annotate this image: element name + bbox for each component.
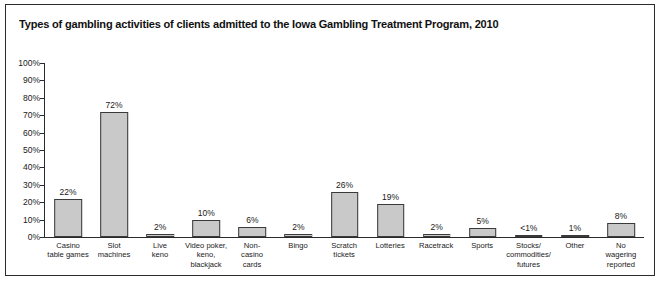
x-axis-labels: Casinotable gamesSlotmachinesLivekenoVid… — [45, 241, 644, 269]
bar-slot[interactable]: 2% — [275, 63, 321, 238]
x-axis-category-label: Scratchtickets — [321, 241, 367, 269]
y-axis-tick — [40, 133, 44, 134]
y-axis-tick — [40, 98, 44, 99]
bar-value-label: 2% — [292, 222, 304, 232]
x-axis-category-line: Lotteries — [368, 241, 412, 250]
bar-value-label: 5% — [477, 216, 489, 226]
bar-slot[interactable]: 22% — [45, 63, 91, 238]
y-axis-tick — [40, 202, 44, 203]
bar-slot[interactable]: 19% — [368, 63, 414, 238]
bar-value-label: 10% — [198, 208, 215, 218]
y-axis-tick — [40, 63, 44, 64]
y-axis-tick-label: 90% — [6, 75, 40, 85]
bar-value-label: 26% — [336, 180, 353, 190]
x-axis-category-label: Nowageringreported — [598, 241, 644, 269]
x-axis-category-label: Bingo — [275, 241, 321, 269]
x-axis-category-line: tickets — [322, 250, 366, 259]
x-axis-category-label: Lotteries — [367, 241, 413, 269]
x-axis-category-line: No — [599, 241, 643, 250]
x-axis-category-line: commodities/ — [506, 250, 551, 259]
x-axis-category-line: wagering — [599, 250, 643, 259]
y-axis-tick-label: 10% — [6, 215, 40, 225]
bar-slot[interactable]: 10% — [183, 63, 229, 238]
x-axis-category-line: machines — [92, 250, 136, 259]
x-axis-category-line: Sports — [460, 241, 504, 250]
bar-value-label: 1% — [569, 223, 581, 233]
x-axis-category-label: Racetrack — [413, 241, 459, 269]
x-axis-category-line: reported — [599, 260, 643, 269]
x-axis-category-line: Scratch — [322, 241, 366, 250]
bar[interactable] — [607, 223, 635, 237]
y-axis-tick-label: 50% — [6, 145, 40, 155]
x-axis-category-label: Livekeno — [137, 241, 183, 269]
bar-slot[interactable]: 8% — [598, 63, 644, 238]
bar[interactable] — [54, 199, 82, 237]
x-axis-category-label: Slotmachines — [91, 241, 137, 269]
bar-slot[interactable]: 5% — [460, 63, 506, 238]
y-axis-tick-label: 20% — [6, 197, 40, 207]
x-axis-category-line: casino — [230, 250, 274, 259]
y-axis-tick — [40, 185, 44, 186]
x-axis-category-label: Video poker,keno,blackjack — [183, 241, 229, 269]
bar[interactable] — [561, 235, 589, 237]
chart-title: Types of gambling activities of clients … — [19, 18, 498, 30]
bar-value-label: 6% — [246, 215, 258, 225]
bar-slot[interactable]: 72% — [91, 63, 137, 238]
y-axis-tick-label: 70% — [6, 110, 40, 120]
y-axis-tick-label: 0% — [6, 232, 40, 242]
x-axis-category-line: table games — [46, 250, 90, 259]
plot-area: 0%10%20%30%40%50%60%70%80%90%100% 22%72%… — [44, 63, 644, 238]
y-axis-tick — [40, 150, 44, 151]
x-axis-category-label: Other — [552, 241, 598, 269]
bar[interactable] — [100, 112, 128, 237]
x-axis-category-line: Live — [138, 241, 182, 250]
x-axis-category-line: Bingo — [276, 241, 320, 250]
x-axis-category-line: Slot — [92, 241, 136, 250]
x-axis-category-line: Stocks/ — [506, 241, 551, 250]
bar-value-label: 8% — [615, 211, 627, 221]
bar[interactable] — [423, 234, 451, 237]
x-axis-category-line: Non- — [230, 241, 274, 250]
chart-figure: Types of gambling activities of clients … — [5, 4, 655, 276]
x-axis-category-line: futures — [506, 260, 551, 269]
y-axis-tick-label: 30% — [6, 180, 40, 190]
x-axis-category-line: keno — [138, 250, 182, 259]
y-axis-tick — [40, 80, 44, 81]
y-axis-tick — [40, 220, 44, 221]
y-axis-tick-label: 40% — [6, 162, 40, 172]
bar[interactable] — [515, 235, 543, 237]
bar-slot[interactable]: 6% — [229, 63, 275, 238]
bar-slot[interactable]: 1% — [552, 63, 598, 238]
bar-slot[interactable]: 2% — [414, 63, 460, 238]
x-axis-category-label: Casinotable games — [45, 241, 91, 269]
x-axis-category-label: Non-casinocards — [229, 241, 275, 269]
bar-value-label: 2% — [431, 222, 443, 232]
x-axis-category-label: Sports — [459, 241, 505, 269]
bar[interactable] — [192, 220, 220, 237]
bar-slot[interactable]: 2% — [137, 63, 183, 238]
x-axis-category-line: blackjack — [184, 260, 228, 269]
bar[interactable] — [377, 204, 405, 237]
bar-value-label: <1% — [520, 223, 537, 233]
y-axis-tick-label: 100% — [6, 58, 40, 68]
x-axis-category-line: Casino — [46, 241, 90, 250]
x-axis-category-label: Stocks/commodities/futures — [505, 241, 552, 269]
x-axis-category-line: cards — [230, 260, 274, 269]
bar[interactable] — [285, 234, 313, 237]
y-axis-tick-label: 80% — [6, 93, 40, 103]
bar-value-label: 72% — [106, 100, 123, 110]
bar[interactable] — [331, 192, 359, 237]
bar[interactable] — [469, 228, 497, 237]
bar[interactable] — [146, 234, 174, 237]
bar[interactable] — [239, 227, 267, 237]
y-axis-tick — [40, 167, 44, 168]
bar-value-label: 22% — [60, 187, 77, 197]
y-axis-tick — [40, 115, 44, 116]
x-axis-category-line: Video poker, — [184, 241, 228, 250]
x-axis-category-line: Other — [553, 241, 597, 250]
y-axis-tick-label: 60% — [6, 128, 40, 138]
bar-value-label: 2% — [154, 222, 166, 232]
bar-slot[interactable]: <1% — [506, 63, 552, 238]
bar-slot[interactable]: 26% — [321, 63, 367, 238]
bar-value-label: 19% — [382, 192, 399, 202]
